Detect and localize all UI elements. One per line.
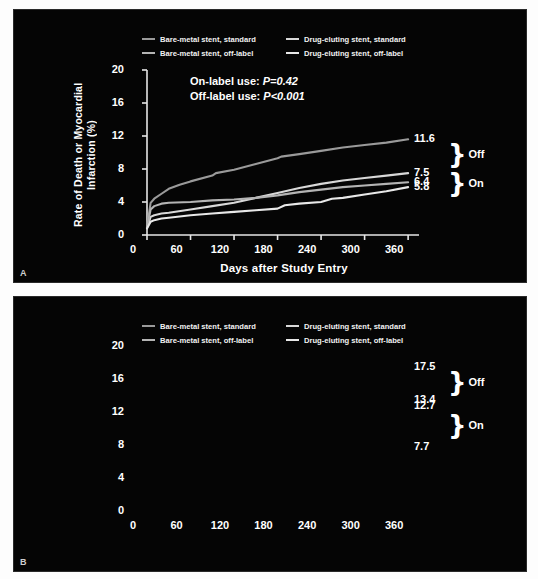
legend-panel-a: Bare-metal stent, standardDrug-eluting s… xyxy=(142,32,422,60)
series-line xyxy=(147,139,408,226)
legend-item-label: Drug-eluting stent, off-label xyxy=(304,336,403,345)
endpoint-value-label: 17.5 xyxy=(414,360,435,372)
legend-item-0[interactable]: Bare-metal stent, standard xyxy=(142,32,272,46)
x-tick-label: 0 xyxy=(118,519,148,531)
chart-panel-b: Bare-metal stent, standardDrug-eluting s… xyxy=(13,296,527,572)
legend-item-label: Drug-eluting stent, standard xyxy=(304,322,406,331)
y-tick-label: 4 xyxy=(102,195,124,207)
y-tick-label: 4 xyxy=(102,471,124,483)
x-tick-label: 300 xyxy=(336,519,366,531)
x-tick-label: 0 xyxy=(118,243,148,255)
chart-panel-a: Bare-metal stent, standardDrug-eluting s… xyxy=(13,9,527,283)
x-tick-label: 300 xyxy=(336,243,366,255)
legend-item-label: Bare-metal stent, standard xyxy=(160,322,256,331)
endpoint-value-label: 7.7 xyxy=(414,440,429,452)
y-tick-label: 20 xyxy=(102,63,124,75)
x-tick-label: 360 xyxy=(379,243,409,255)
y-tick-label: 12 xyxy=(102,405,124,417)
legend-swatch-icon xyxy=(142,52,155,54)
x-tick-label: 360 xyxy=(379,519,409,531)
legend-panel-b: Bare-metal stent, standardDrug-eluting s… xyxy=(142,319,422,347)
series-line xyxy=(147,173,408,227)
y-tick-label: 0 xyxy=(102,228,124,240)
brace-label: Off xyxy=(469,376,485,388)
legend-swatch-icon xyxy=(286,325,299,327)
legend-item-2[interactable]: Bare-metal stent, off-label xyxy=(142,46,272,60)
plot-svg-a xyxy=(147,70,419,235)
y-tick-label: 0 xyxy=(102,504,124,516)
data-series-a xyxy=(147,139,408,228)
brace-off: }Off xyxy=(448,148,484,160)
figure-page: Bare-metal stent, standardDrug-eluting s… xyxy=(0,0,538,579)
y-tick-label: 20 xyxy=(102,339,124,351)
panel-letter-a: A xyxy=(20,268,27,278)
legend-swatch-icon xyxy=(142,38,155,40)
x-tick-label: 60 xyxy=(162,243,192,255)
legend-swatch-icon xyxy=(286,52,299,54)
brace-label: On xyxy=(469,177,484,189)
x-tick-label: 240 xyxy=(292,519,322,531)
endpoint-value-label: 12.7 xyxy=(414,399,435,411)
brace-off: }Off xyxy=(448,376,484,388)
x-tick-label: 120 xyxy=(205,243,235,255)
y-tick-label: 8 xyxy=(102,162,124,174)
brace-label: Off xyxy=(469,148,485,160)
legend-item-label: Bare-metal stent, off-label xyxy=(160,49,253,58)
brace-on: }On xyxy=(448,419,484,431)
legend-item-label: Drug-eluting stent, standard xyxy=(304,35,406,44)
x-tick-label: 120 xyxy=(205,519,235,531)
y-axis-label-a: Rate of Death or Myocardial Infarction (… xyxy=(72,70,98,240)
panel-letter-b: B xyxy=(20,557,27,567)
x-tick-label: 240 xyxy=(292,243,322,255)
legend-item-1[interactable]: Drug-eluting stent, standard xyxy=(286,32,422,46)
legend-item-3[interactable]: Drug-eluting stent, off-label xyxy=(286,46,422,60)
x-tick-label: 180 xyxy=(249,519,279,531)
axis-lines-a xyxy=(142,70,419,240)
y-tick-label: 8 xyxy=(102,438,124,450)
legend-swatch-icon xyxy=(286,38,299,40)
legend-item-3[interactable]: Drug-eluting stent, off-label xyxy=(286,333,422,347)
legend-swatch-icon xyxy=(142,339,155,341)
endpoint-value-label: 11.6 xyxy=(414,132,435,144)
legend-item-label: Bare-metal stent, standard xyxy=(160,35,256,44)
legend-swatch-icon xyxy=(142,325,155,327)
legend-swatch-icon xyxy=(286,339,299,341)
endpoint-value-label: 5.8 xyxy=(414,180,429,192)
brace-label: On xyxy=(469,419,484,431)
legend-item-2[interactable]: Bare-metal stent, off-label xyxy=(142,333,272,347)
x-tick-label: 180 xyxy=(249,243,279,255)
brace-on: }On xyxy=(448,177,484,189)
x-axis-label-a: Days after Study Entry xyxy=(134,262,434,274)
y-tick-label: 12 xyxy=(102,129,124,141)
y-tick-label: 16 xyxy=(102,372,124,384)
legend-item-0[interactable]: Bare-metal stent, standard xyxy=(142,319,272,333)
series-line xyxy=(147,182,408,227)
legend-item-label: Bare-metal stent, off-label xyxy=(160,336,253,345)
plot-area-a xyxy=(147,70,419,235)
legend-item-1[interactable]: Drug-eluting stent, standard xyxy=(286,319,422,333)
y-tick-label: 16 xyxy=(102,96,124,108)
legend-item-label: Drug-eluting stent, off-label xyxy=(304,49,403,58)
x-tick-label: 60 xyxy=(162,519,192,531)
